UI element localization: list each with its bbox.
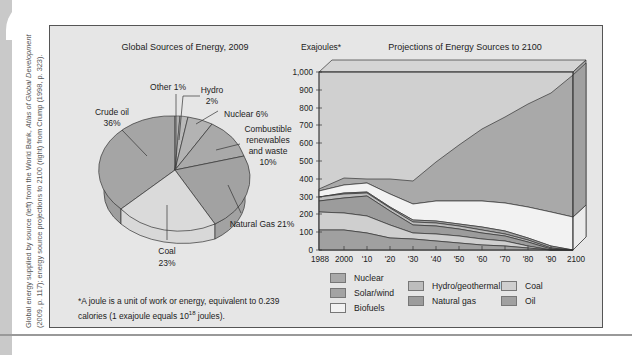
area-y-tick-labels: 0 100 200 300 400 500 600 700 800 900 1,… — [293, 68, 314, 255]
pie-chart — [99, 116, 250, 244]
legend-swatch-nuclear — [330, 273, 346, 283]
legend-swatch-natural-gas — [408, 296, 424, 306]
area-chart — [319, 60, 586, 250]
pie-label-nuclear: Nuclear 6% — [224, 109, 268, 119]
legend-item-natural-gas: Natural gas — [408, 296, 476, 306]
x-tick: '80 — [523, 255, 534, 264]
legend-label: Biofuels — [354, 303, 385, 313]
legend-label: Hydro/geothermal — [432, 281, 500, 291]
x-tick: '20 — [385, 255, 396, 264]
legend-item-biofuels: Biofuels — [330, 303, 385, 313]
legend-swatch-biofuels — [330, 303, 346, 313]
area-x-tick-labels: 1988 2000 '10 '20 '30 '40 '50 '60 '70 '8… — [311, 255, 586, 264]
legend-swatch-coal — [501, 281, 517, 291]
area-y-label: Exajoules* — [301, 42, 342, 52]
x-tick: '90 — [546, 255, 557, 264]
pie-label-crude-oil-pct: 36% — [103, 118, 120, 128]
y-tick: 900 — [299, 86, 313, 95]
x-tick: '10 — [362, 255, 373, 264]
y-tick: 0 — [308, 246, 313, 255]
y-tick: 1,000 — [293, 68, 314, 77]
pie-label-coal-pct: 23% — [158, 258, 175, 268]
legend-label: Nuclear — [354, 273, 384, 283]
x-tick: 2100 — [567, 255, 586, 264]
y-tick: 400 — [299, 175, 313, 184]
legend-item-solar-wind: Solar/wind — [330, 288, 394, 298]
legend-swatch-oil — [501, 296, 517, 306]
x-tick: 2000 — [335, 255, 354, 264]
pie-label-natural-gas: Natural Gas 21% — [230, 219, 295, 229]
legend-item-hydro-geothermal: Hydro/geothermal — [408, 281, 500, 291]
pie-label-combustible-3: and waste — [249, 146, 288, 156]
y-tick: 500 — [299, 157, 313, 166]
y-tick: 100 — [299, 228, 313, 237]
footnote-line-1: *A joule is a unit of work or energy, eq… — [78, 295, 328, 307]
legend-label: Natural gas — [432, 296, 476, 306]
x-tick: '70 — [500, 255, 511, 264]
legend-item-oil: Oil — [501, 296, 536, 306]
legend-swatch-solar-wind — [330, 288, 346, 298]
x-tick: '60 — [477, 255, 488, 264]
pie-title: Global Sources of Energy, 2009 — [122, 42, 249, 52]
pie-label-hydro-pct: 2% — [206, 96, 219, 106]
legend-label: Solar/wind — [354, 288, 394, 298]
pie-label-other: Other 1% — [150, 82, 186, 92]
pie-label-combustible: Combustible — [244, 124, 292, 134]
y-tick: 700 — [299, 121, 313, 130]
y-tick: 800 — [299, 104, 313, 113]
pie-label-crude-oil: Crude oil — [95, 107, 129, 117]
area-title: Projections of Energy Sources to 2100 — [388, 42, 542, 52]
y-tick: 300 — [299, 193, 313, 202]
x-tick: 1988 — [311, 255, 330, 264]
footnote-text: calories (1 exajoule equals 10 — [78, 311, 189, 321]
footnote-text-end: joules). — [196, 311, 225, 321]
x-tick: '30 — [408, 255, 419, 264]
pie-label-hydro: Hydro — [201, 85, 224, 95]
x-tick: '40 — [431, 255, 442, 264]
legend-label: Oil — [525, 296, 536, 306]
y-tick: 200 — [299, 210, 313, 219]
footnote-exponent: 18 — [189, 310, 196, 316]
y-tick: 600 — [299, 139, 313, 148]
pie-label-coal: Coal — [158, 246, 176, 256]
legend-swatch-hydro-geothermal — [408, 281, 424, 291]
pie-label-combustible-pct: 10% — [259, 157, 276, 167]
legend-item-coal: Coal — [501, 281, 543, 291]
footnote: *A joule is a unit of work or energy, eq… — [78, 295, 328, 322]
legend-label: Coal — [525, 281, 543, 291]
pie-label-combustible-2: renewables — [246, 135, 289, 145]
footnote-line-2: calories (1 exajoule equals 1018 joules)… — [78, 307, 328, 322]
x-tick: '50 — [454, 255, 465, 264]
legend-item-nuclear: Nuclear — [330, 273, 384, 283]
